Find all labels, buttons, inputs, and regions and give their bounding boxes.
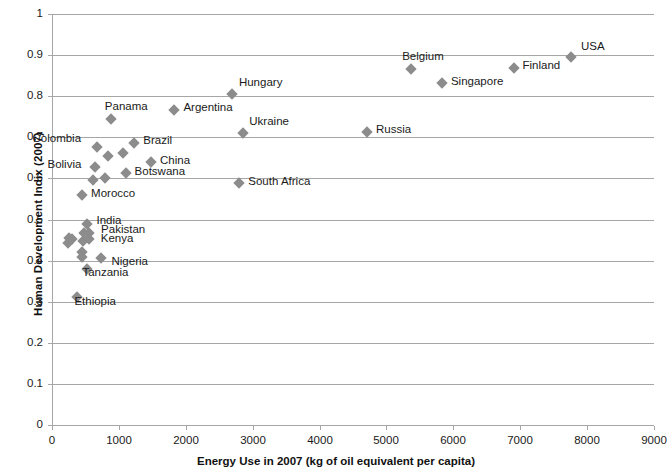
x-axis-line: [52, 425, 654, 426]
x-tick-label: 9000: [624, 435, 672, 447]
y-gridline: [52, 178, 654, 179]
data-point-label: Botswana: [135, 166, 186, 178]
y-tick-label: 1: [0, 8, 43, 20]
y-gridline: [52, 96, 654, 97]
data-point-marker: [120, 167, 131, 178]
data-point-marker: [90, 162, 101, 173]
y-tick-label: 0.2: [0, 337, 43, 349]
data-point-label: Belgium: [402, 51, 444, 63]
data-point-marker: [103, 150, 114, 161]
y-gridline: [52, 14, 654, 15]
x-tick-label: 6000: [423, 435, 483, 447]
y-tick-label: 0: [0, 419, 43, 431]
data-point-label: Colombia: [32, 133, 81, 145]
data-point-marker: [508, 63, 519, 74]
data-point-marker: [565, 51, 576, 62]
y-tick-label: 0.1: [0, 378, 43, 390]
data-point-marker: [92, 141, 103, 152]
y-axis-line: [52, 14, 53, 425]
data-point-marker: [436, 77, 447, 88]
x-tick-mark: [186, 426, 187, 430]
x-tick-mark: [52, 426, 53, 430]
x-axis-title: Energy Use in 2007 (kg of oil equivalent…: [0, 455, 672, 467]
x-tick-mark: [119, 426, 120, 430]
y-tick-label: 0.3: [0, 296, 43, 308]
data-point-label: Russia: [376, 124, 411, 136]
x-tick-label: 8000: [557, 435, 617, 447]
x-tick-label: 5000: [356, 435, 416, 447]
y-gridline: [52, 302, 654, 303]
y-tick-label: 0.5: [0, 214, 43, 226]
x-tick-label: 4000: [290, 435, 350, 447]
data-point-label: Ukraine: [249, 116, 289, 128]
y-tick-label: 0.8: [0, 90, 43, 102]
data-point-marker: [105, 114, 116, 125]
data-point-label: Panama: [105, 101, 148, 113]
y-gridline: [52, 220, 654, 221]
data-point-label: Tanzania: [82, 267, 128, 279]
data-point-label: Finland: [523, 60, 561, 72]
y-tick-label: 0.4: [0, 255, 43, 267]
data-point-label: Hungary: [239, 77, 282, 89]
data-point-label: Morocco: [91, 188, 135, 200]
data-point-marker: [169, 105, 180, 116]
x-tick-label: 1000: [89, 435, 149, 447]
data-point-marker: [226, 88, 237, 99]
x-tick-label: 2000: [156, 435, 216, 447]
data-point-marker: [76, 189, 87, 200]
x-tick-mark: [654, 426, 655, 430]
y-tick-label: 0.9: [0, 49, 43, 61]
data-point-marker: [129, 138, 140, 149]
data-point-label: South Africa: [248, 176, 310, 188]
x-tick-mark: [520, 426, 521, 430]
x-tick-label: 3000: [223, 435, 283, 447]
data-point-marker: [406, 63, 417, 74]
x-tick-mark: [587, 426, 588, 430]
x-tick-label: 0: [22, 435, 82, 447]
scatter-chart: Human Development Indix (2007) Energy Us…: [0, 0, 672, 470]
x-tick-mark: [386, 426, 387, 430]
data-point-label: Kenya: [101, 233, 134, 245]
y-tick-label: 0.6: [0, 172, 43, 184]
data-point-marker: [99, 173, 110, 184]
data-point-label: Singapore: [451, 76, 503, 88]
data-point-label: Ethiopia: [74, 296, 116, 308]
y-gridline: [52, 384, 654, 385]
x-tick-mark: [453, 426, 454, 430]
y-gridline: [52, 343, 654, 344]
data-point-label: Argentina: [183, 102, 232, 114]
data-point-label: Brazil: [143, 135, 172, 147]
data-point-marker: [117, 147, 128, 158]
data-point-label: USA: [581, 41, 605, 53]
x-tick-mark: [253, 426, 254, 430]
x-tick-mark: [320, 426, 321, 430]
data-point-label: Bolivia: [47, 159, 81, 171]
data-point-marker: [88, 174, 99, 185]
y-gridline: [52, 55, 654, 56]
x-tick-label: 7000: [490, 435, 550, 447]
